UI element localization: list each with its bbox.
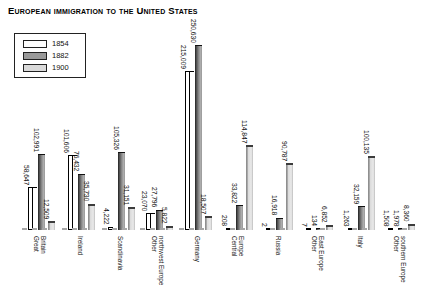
value-label-1854-other-east-europe: 7	[301, 223, 308, 227]
bar-1900-germany	[205, 216, 212, 230]
bar-shadow	[270, 228, 275, 230]
bar-1854-great-britain	[28, 187, 33, 230]
value-label-1900-ireland: 35,730	[83, 181, 90, 201]
value-label-1900-central-europe: 114,847	[241, 120, 248, 143]
value-label-1854-italy: 1,263	[343, 210, 350, 227]
value-label-1854-other-southern-europe: 1,508	[383, 210, 390, 227]
category-label-russia: Russia	[275, 236, 282, 255]
category-label-other-southern-europe: Other southern Europe	[393, 236, 407, 283]
bar-shadow	[102, 228, 107, 230]
bar-1900-other-east-europe	[326, 225, 333, 230]
value-label-1900-great-britain: 12,509	[43, 199, 50, 219]
bar-shadow	[42, 228, 47, 230]
bar-shadow	[199, 228, 204, 230]
bar-shadow	[362, 228, 367, 230]
bar-1900-russia	[286, 163, 293, 230]
bar-1854-germany	[185, 71, 190, 230]
bar-shadow	[280, 228, 285, 230]
value-label-1882-other-northwest-europe: 27,796	[151, 187, 158, 207]
bar-1900-ireland	[88, 204, 95, 230]
value-label-1900-scandinavia: 31,151	[123, 185, 130, 205]
legend-item-1900: 1900	[23, 63, 85, 72]
bar-shadow	[22, 228, 27, 230]
bar-shadow	[112, 228, 117, 230]
bar-shadow	[402, 228, 407, 230]
value-label-1900-other-southern-europe: 8,360	[403, 205, 410, 222]
bar-shadow	[140, 228, 145, 230]
bar-shadow	[32, 228, 37, 230]
legend-label-1854: 1854	[52, 40, 69, 48]
legend-swatch-1900	[23, 64, 47, 72]
value-label-1900-other-northwest-europe: 5,822	[161, 207, 168, 224]
bar-shadow	[62, 228, 67, 230]
value-label-1882-other-southern-europe: 1,978	[393, 210, 400, 227]
legend-label-1900: 1900	[52, 64, 69, 72]
category-label-other-northwest-europe: Other northwest Europe	[151, 236, 165, 285]
value-label-1882-central-europe: 33,822	[231, 183, 238, 203]
value-label-1900-other-east-europe: 6,852	[321, 206, 328, 223]
bar-shadow	[352, 228, 357, 230]
value-label-1882-great-britain: 102,991	[33, 128, 40, 152]
bar-shadow	[189, 228, 194, 230]
legend-item-1854: 1854	[23, 39, 85, 48]
bar-1882-italy	[358, 206, 365, 230]
bar-1900-other-northwest-europe	[166, 226, 173, 230]
bar-shadow	[179, 228, 184, 230]
bar-shadow	[240, 228, 245, 230]
value-label-1900-italy: 100,135	[363, 130, 370, 154]
value-label-1900-germany: 18,507	[200, 194, 207, 214]
value-label-1854-scandinavia: 4,222	[103, 208, 110, 225]
bar-shadow	[122, 228, 127, 230]
value-label-1882-scandinavia: 105,326	[113, 126, 120, 150]
legend-label-1882: 1882	[52, 52, 69, 60]
bar-shadow	[150, 228, 155, 230]
value-label-1854-germany: 215,009	[180, 45, 187, 69]
category-label-other-east-europe: Other East Europe	[311, 236, 325, 271]
bar-1900-central-europe	[246, 145, 253, 230]
legend-swatch-1854	[23, 40, 47, 48]
category-label-germany: Germany	[194, 236, 201, 262]
value-label-1882-italy: 32,159	[353, 184, 360, 204]
value-label-1854-russia: 2	[261, 223, 268, 227]
category-label-scandinavia: Scandinavia	[117, 236, 124, 270]
bar-1900-scandinavia	[128, 207, 135, 230]
category-label-italy: Italy	[357, 236, 364, 248]
bar-1900-other-southern-europe	[408, 224, 415, 230]
value-label-1854-other-northwest-europe: 23,070	[141, 191, 148, 211]
value-label-1882-russia: 16,918	[271, 195, 278, 215]
legend-item-1882: 1882	[23, 51, 85, 60]
value-label-1854-ireland: 101,606	[63, 129, 70, 153]
bar-1882-central-europe	[236, 205, 243, 230]
bar-shadow	[160, 228, 165, 230]
category-label-central-europe: Central Europe	[231, 236, 245, 256]
bar-1900-italy	[368, 156, 375, 230]
bar-1900-great-britain	[48, 221, 55, 230]
bar-1854-other-east-europe	[306, 228, 311, 230]
bar-shadow	[82, 228, 87, 230]
legend: 1854 1882 1900	[14, 33, 86, 78]
legend-swatch-1882	[23, 52, 47, 60]
bar-shadow	[320, 228, 325, 230]
bar-shadow	[230, 228, 235, 230]
chart-title: European immigration to the United State…	[8, 5, 198, 16]
bar-1854-other-southern-europe	[388, 228, 393, 230]
value-label-1882-ireland: 76,432	[73, 151, 80, 171]
value-label-1854-great-britain: 58,647	[23, 165, 30, 185]
value-label-1854-central-europe: 208	[221, 215, 228, 226]
value-label-1882-other-east-europe: 134	[311, 215, 318, 226]
category-label-ireland: Ireland	[77, 236, 84, 255]
value-label-1900-russia: 90,787	[281, 141, 288, 161]
category-label-great-britain: Great Britain	[33, 236, 47, 254]
bar-shadow	[72, 228, 77, 230]
chart-area: European immigration to the United State…	[0, 0, 438, 290]
value-label-1882-germany: 250,630	[190, 19, 197, 43]
